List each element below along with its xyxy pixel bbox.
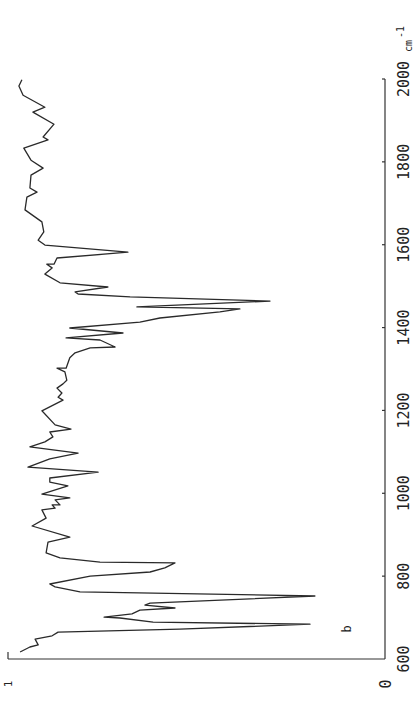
x-tick-label-2000: 2000 (395, 61, 413, 97)
x-axis-unit-label: cm -1 (395, 26, 414, 52)
unit-base: cm (403, 40, 414, 52)
y-axis-min-label: 0 (377, 679, 395, 688)
x-tick-label-800: 800 (395, 563, 413, 590)
x-tick-label-1200: 1200 (395, 392, 413, 428)
x-tick-label-600: 600 (395, 645, 413, 672)
x-tick-label-1600: 1600 (395, 227, 413, 263)
ir-spectrum-chart: 600800100012001400160018002000 0 1 b cm … (0, 0, 419, 702)
x-tick-label-1000: 1000 (395, 475, 413, 511)
panel-label: b (340, 625, 354, 632)
unit-superscript: -1 (395, 26, 406, 38)
spectrum-line (19, 80, 315, 652)
axes (8, 79, 385, 659)
y-axis-max-label: 1 (2, 681, 15, 688)
x-axis-tick-labels: 600800100012001400160018002000 (395, 61, 413, 673)
x-tick-label-1800: 1800 (395, 144, 413, 180)
x-tick-label-1400: 1400 (395, 310, 413, 346)
